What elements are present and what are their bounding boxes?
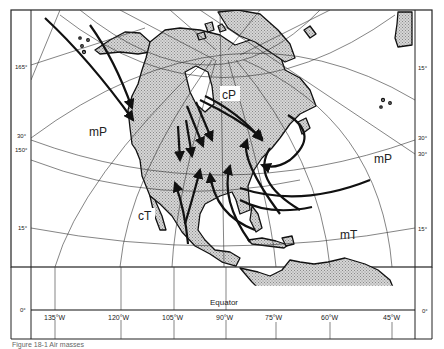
svg-text:0°: 0° xyxy=(422,308,428,314)
svg-text:0°: 0° xyxy=(20,307,26,313)
label-mP-east: mP xyxy=(374,152,392,166)
equator-label: Equator xyxy=(210,298,238,307)
map-body xyxy=(31,10,420,340)
svg-text:60°W: 60°W xyxy=(321,314,339,321)
svg-text:30°: 30° xyxy=(17,133,27,139)
svg-text:75°W: 75°W xyxy=(265,314,283,321)
svg-text:30°: 30° xyxy=(418,151,428,157)
svg-text:15°: 15° xyxy=(418,65,428,71)
svg-text:15°: 15° xyxy=(18,225,28,231)
label-cP: cP xyxy=(222,88,236,102)
left-latitude-ticks: 165° 30° 150° 15° 0° xyxy=(15,64,28,313)
label-mT: mT xyxy=(340,228,358,242)
label-mP-west: mP xyxy=(89,125,107,139)
svg-text:105°W: 105°W xyxy=(162,314,183,321)
svg-text:90°W: 90°W xyxy=(216,314,234,321)
svg-text:135°W: 135°W xyxy=(44,314,65,321)
svg-text:165°: 165° xyxy=(15,64,28,70)
air-mass-map: mP cP mP cT mT Equator 165° 30° 150° 15°… xyxy=(0,0,444,349)
svg-text:15°: 15° xyxy=(418,226,428,232)
longitude-labels: 135°W 120°W 105°W 90°W 75°W 60°W 45°W xyxy=(44,313,406,322)
svg-text:45°W: 45°W xyxy=(383,314,401,321)
svg-text:120°W: 120°W xyxy=(108,314,129,321)
figure-caption: Figure 18-1 Air masses xyxy=(12,341,84,348)
label-cT: cT xyxy=(138,209,152,223)
right-latitude-ticks: 15° 30° 30° 15° 0° xyxy=(418,65,428,314)
svg-text:150°: 150° xyxy=(15,147,28,153)
svg-text:30°: 30° xyxy=(418,135,428,141)
